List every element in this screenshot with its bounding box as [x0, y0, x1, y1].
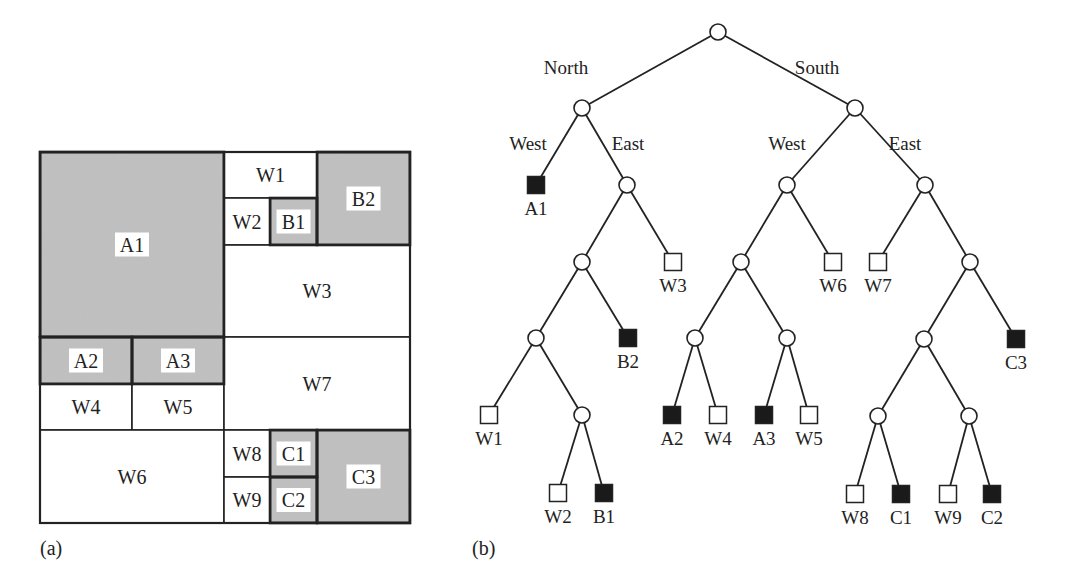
internal-node-circle-icon [917, 177, 933, 193]
leaf-node-w1: W1 [475, 407, 502, 450]
leaf-label: W4 [704, 428, 732, 449]
leaf-label: A2 [660, 428, 683, 449]
cell-label: C3 [352, 466, 375, 488]
leaf-node-b2: B2 [617, 330, 639, 373]
cell-label: B2 [352, 188, 375, 210]
white-leaf-square-icon [481, 407, 498, 424]
leaf-node-w6: W6 [819, 254, 846, 297]
tree-edge [695, 262, 741, 338]
black-leaf-square-icon [756, 407, 773, 424]
leaf-node-w9: W9 [934, 486, 961, 529]
black-leaf-square-icon [1008, 331, 1025, 348]
internal-node-circle-icon [870, 408, 886, 424]
leaf-node-c2: C2 [981, 486, 1003, 529]
leaf-node-w8: W8 [841, 486, 868, 529]
cell-label: W3 [303, 280, 332, 302]
white-leaf-square-icon [665, 254, 682, 271]
cell-a1: A1 [40, 152, 224, 337]
cell-w7: W7 [224, 337, 410, 430]
edge-label-north: North [544, 57, 589, 78]
internal-node-circle-icon [779, 330, 795, 346]
leaf-label: B1 [593, 506, 615, 527]
leaf-node-b1: B1 [593, 485, 615, 528]
cell-w2: W2 [224, 198, 270, 245]
tree-edge [695, 338, 718, 415]
tree-edge [970, 262, 1016, 339]
tree-edge [582, 415, 604, 493]
leaf-label: C3 [1005, 352, 1027, 373]
tree-edge [924, 339, 969, 416]
cell-w5: W5 [132, 384, 224, 430]
internal-node-circle-icon [574, 100, 590, 116]
internal-node-circle-icon [847, 100, 863, 116]
cell-label: A2 [74, 350, 98, 372]
edge-label-west: West [509, 133, 547, 154]
internal-node-circle-icon [574, 254, 590, 270]
edge-label-east: East [889, 133, 922, 154]
leaf-node-a1: A1 [524, 177, 547, 220]
leaf-label: A3 [752, 428, 775, 449]
black-leaf-square-icon [620, 330, 637, 347]
white-leaf-square-icon [710, 407, 727, 424]
leaf-label: C1 [890, 507, 912, 528]
tree-edge [627, 185, 673, 262]
cell-label: W4 [72, 396, 101, 418]
leaf-node-c3: C3 [1005, 331, 1027, 374]
internal-node-circle-icon [710, 24, 726, 40]
tree-edge [489, 338, 536, 415]
tree-edge [764, 338, 787, 415]
cell-b1: B1 [270, 198, 317, 245]
leaf-label: W9 [934, 507, 961, 528]
cell-a3: A3 [132, 337, 224, 384]
tree-edge [878, 185, 925, 262]
internal-node-circle-icon [619, 177, 635, 193]
black-leaf-square-icon [893, 486, 910, 503]
tree-edge [558, 415, 582, 493]
panel-b-quadtree: NorthSouthWestEastWestEastA1W3B2W1W2B1W6… [475, 24, 1027, 528]
cell-c1: C1 [270, 430, 317, 477]
tree-edge [741, 185, 787, 262]
cell-label: C2 [282, 489, 305, 511]
black-leaf-square-icon [596, 485, 613, 502]
cell-w6: W6 [40, 430, 224, 523]
leaf-label: W3 [659, 275, 686, 296]
cell-w1: W1 [224, 152, 317, 198]
cell-b2: B2 [317, 152, 410, 245]
tree-edge [536, 262, 582, 338]
tree-edge [672, 338, 695, 415]
tree-edge [741, 262, 787, 338]
tree-edge [878, 339, 924, 416]
edge-label-east: East [612, 133, 645, 154]
leaf-label: W8 [841, 507, 868, 528]
cell-label: A1 [120, 234, 144, 256]
leaf-node-w2: W2 [544, 485, 571, 528]
internal-node-circle-icon [779, 177, 795, 193]
tree-edge [948, 416, 969, 494]
tree-edge [787, 185, 833, 262]
cell-w3: W3 [224, 245, 410, 337]
internal-node-circle-icon [528, 330, 544, 346]
black-leaf-square-icon [984, 486, 1001, 503]
internal-node-circle-icon [961, 408, 977, 424]
white-leaf-square-icon [870, 254, 887, 271]
tree-edge [787, 338, 809, 415]
cell-w9: W9 [224, 477, 270, 523]
black-leaf-square-icon [528, 177, 545, 194]
white-leaf-square-icon [801, 407, 818, 424]
leaf-label: W7 [864, 275, 891, 296]
leaf-label: W1 [475, 428, 502, 449]
tree-edge [582, 262, 628, 338]
cell-label: A3 [166, 350, 190, 372]
tree-edge [582, 185, 627, 262]
cell-label: W6 [118, 466, 147, 488]
leaf-label: A1 [524, 198, 547, 219]
internal-node-circle-icon [687, 330, 703, 346]
leaf-node-a2: A2 [660, 407, 683, 450]
tree-edge [878, 416, 901, 494]
leaf-node-w3: W3 [659, 254, 686, 297]
tree-edge [925, 185, 970, 262]
leaf-label: C2 [981, 507, 1003, 528]
cell-label: W5 [164, 396, 193, 418]
edge-label-south: South [795, 57, 840, 78]
cell-label: C1 [282, 443, 305, 465]
